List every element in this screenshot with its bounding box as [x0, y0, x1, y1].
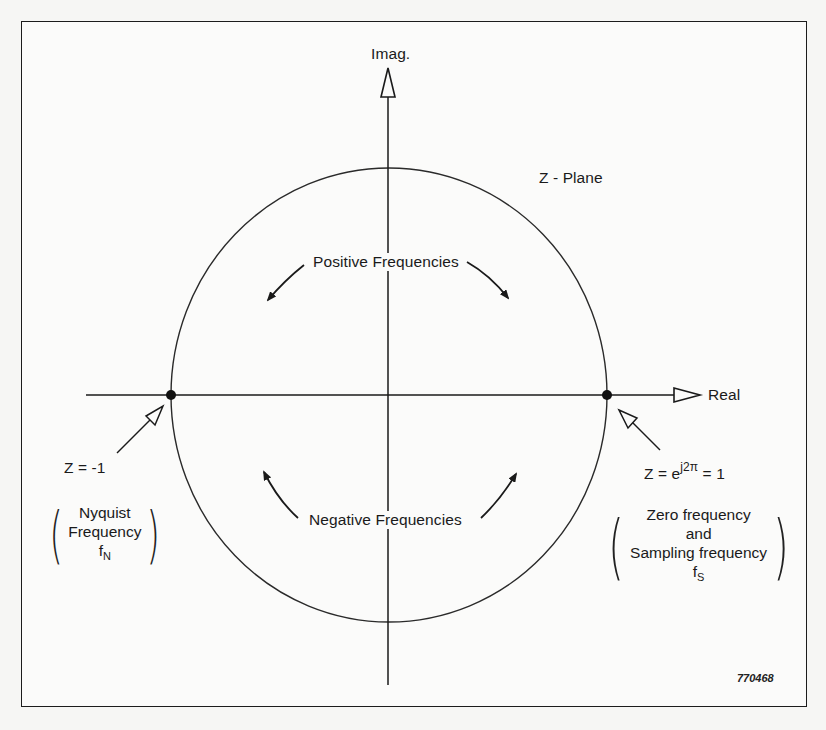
nyquist-symbol: fN	[99, 541, 111, 566]
figure-id: 770468	[737, 672, 774, 684]
zero-freq-point	[602, 390, 612, 400]
negative-freq-right-arrow-icon	[481, 474, 516, 518]
imag-arrow-icon	[381, 68, 395, 97]
nyquist-note-line: Nyquist	[79, 503, 131, 522]
zero-freq-note: ( Zero frequency and Sampling frequency …	[602, 505, 795, 587]
nyquist-pointer-shaft	[117, 420, 150, 453]
zero-freq-pointer-shaft	[632, 422, 660, 450]
positive-freq-left-arrow-icon	[268, 265, 304, 300]
zero-freq-note-line: Zero frequency	[646, 505, 750, 524]
z-plane-diagram	[0, 0, 826, 730]
right-paren: )	[773, 516, 788, 576]
zero-freq-pointer-icon	[619, 410, 637, 428]
zero-freq-equation: Z = ej2π = 1	[644, 458, 725, 483]
positive-freq-right-arrow-icon	[467, 262, 508, 298]
left-paren: (	[49, 505, 62, 565]
zero-freq-note-line: and	[686, 524, 712, 543]
nyquist-point	[166, 390, 176, 400]
real-arrow-icon	[674, 388, 700, 402]
right-paren: )	[147, 505, 160, 565]
plane-title: Z - Plane	[539, 169, 603, 187]
real-axis-label: Real	[708, 386, 740, 404]
nyquist-equation: Z = -1	[64, 459, 106, 477]
sampling-symbol: fS	[693, 562, 705, 587]
positive-frequencies-label: Positive Frequencies	[311, 253, 461, 271]
imag-axis-label: Imag.	[371, 45, 410, 63]
nyquist-note: ( Nyquist Frequency fN )	[44, 503, 166, 566]
negative-freq-left-arrow-icon	[264, 472, 298, 518]
nyquist-note-line: Frequency	[68, 522, 141, 541]
left-paren: (	[608, 516, 623, 576]
zero-freq-note-line: Sampling frequency	[630, 543, 767, 562]
negative-frequencies-label: Negative Frequencies	[307, 511, 464, 529]
